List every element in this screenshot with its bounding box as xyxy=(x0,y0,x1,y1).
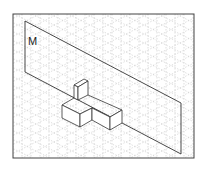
grid-line-diagonal xyxy=(0,140,203,173)
grid-line-diagonal xyxy=(0,133,203,172)
grid-line-diagonal xyxy=(0,0,203,100)
grid-line-diagonal xyxy=(0,158,203,173)
grid-line-diagonal xyxy=(0,151,203,172)
grid-line-diagonal xyxy=(0,50,203,152)
grid-line-diagonal xyxy=(0,16,203,118)
grid-line-diagonal xyxy=(0,41,203,143)
plane-label: M xyxy=(28,35,37,47)
grid-line-diagonal xyxy=(0,160,203,172)
grid-line-diagonal xyxy=(0,95,203,173)
grid-line-diagonal xyxy=(0,0,203,10)
isometric-grid xyxy=(0,0,203,172)
grid-line-diagonal xyxy=(0,97,203,172)
isometric-solid xyxy=(62,79,122,130)
grid-line-diagonal xyxy=(0,169,203,172)
grid-line-diagonal xyxy=(0,0,203,7)
base-mid-face xyxy=(92,108,110,130)
grid-line-diagonal xyxy=(0,14,203,116)
grid-line-diagonal xyxy=(0,43,203,145)
grid-line-diagonal xyxy=(0,59,203,161)
grid-line-diagonal xyxy=(0,7,203,109)
grid-line-diagonal xyxy=(0,0,203,64)
grid-line-diagonal xyxy=(0,149,203,173)
grid-line-diagonal xyxy=(0,0,203,1)
diagram-canvas: M xyxy=(0,0,203,172)
top-cube-left-face xyxy=(74,85,78,100)
grid-line-diagonal xyxy=(0,52,203,154)
grid-line-diagonal xyxy=(0,142,203,172)
grid-line-diagonal xyxy=(0,0,203,19)
grid-line-diagonal xyxy=(0,5,203,107)
